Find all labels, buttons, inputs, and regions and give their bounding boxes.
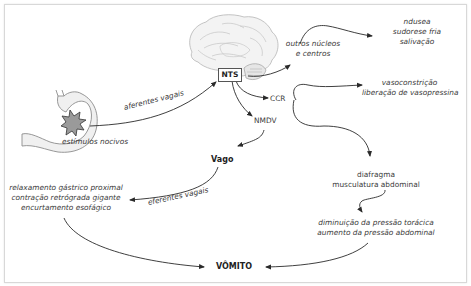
burst-icon <box>61 110 86 136</box>
ccr-node: CCR <box>270 94 285 104</box>
vago-node: Vago <box>211 155 233 165</box>
nts-node: NTS <box>218 68 242 82</box>
other-nuclei-node: outros núcleos e centros <box>268 39 358 59</box>
vasoconstriction-node: vasoconstrição liberação de vasopressina <box>362 78 457 98</box>
edge-to-diaphragm <box>293 100 370 156</box>
edge-to-ccr <box>236 81 268 98</box>
edge-to-pressure <box>360 190 385 212</box>
pressure-node: diminuição da pressão torácica aumento d… <box>311 218 441 238</box>
edge-to-vago <box>238 130 264 146</box>
edge-to-vaso <box>294 84 362 100</box>
vomit-node: VÔMITO <box>216 262 252 272</box>
nmdv-node: NMDV <box>254 116 277 126</box>
edge-gastric-to-vomit <box>64 218 204 267</box>
stimulus-label: estímulos nocivos <box>62 137 128 147</box>
edge-pressure-to-vomit <box>266 243 368 267</box>
nausea-node: ndusea sudorese fria salivação <box>372 17 462 47</box>
edge-to-nmdv <box>232 81 252 116</box>
diaphragm-node: diafragma musculatura abdominal <box>331 170 421 190</box>
gastric-node: relaxamento gástrico proximal contração … <box>8 183 124 213</box>
